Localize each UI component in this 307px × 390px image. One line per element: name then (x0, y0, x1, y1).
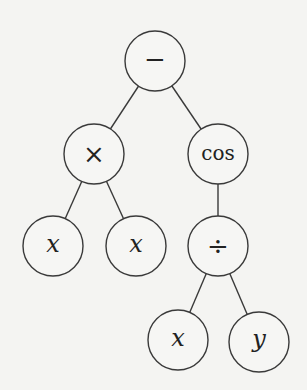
tree-canvas: − × cos x x ÷ (0, 0, 307, 390)
node-label-cos: cos (201, 141, 235, 165)
node-label-y: y (251, 325, 266, 353)
node-x-middle: x (106, 216, 166, 276)
node-cos: cos (188, 124, 248, 184)
node-label-x-left: x (46, 230, 60, 258)
node-label-x-middle: x (129, 230, 143, 258)
node-label-times: × (83, 139, 105, 169)
node-minus: − (125, 31, 185, 91)
expression-tree-diagram: − × cos x x ÷ (0, 0, 307, 390)
node-x-bottom: x (148, 310, 208, 370)
node-y: y (229, 312, 289, 372)
node-times: × (64, 124, 124, 184)
node-label-x-bottom: x (171, 324, 185, 352)
node-divide: ÷ (188, 216, 248, 276)
tree-nodes: − × cos x x ÷ (23, 31, 289, 372)
node-label-divide: ÷ (207, 231, 229, 261)
tree-edges (53, 61, 259, 342)
node-label-minus: − (144, 44, 166, 74)
node-x-left: x (23, 216, 83, 276)
